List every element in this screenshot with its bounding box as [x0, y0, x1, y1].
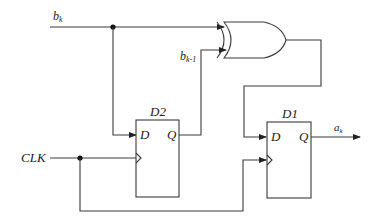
wire-bk-to-d2: [113, 27, 136, 135]
label-bk: bk: [53, 9, 63, 24]
d1-d-pin: D: [270, 129, 281, 144]
d1-q-pin: Q: [299, 129, 309, 144]
label-ak: ak: [334, 121, 344, 135]
d2-title: D2: [149, 104, 166, 119]
d1-title: D1: [281, 106, 298, 121]
circuit-diagram: bk bk-1 D2 D Q D1 D Q CLK: [0, 0, 381, 223]
d2-d-pin: D: [139, 127, 150, 142]
flipflop-d2: D2 D Q: [136, 104, 179, 197]
d2-q-pin: Q: [167, 127, 177, 142]
label-clk: CLK: [21, 150, 47, 165]
xor-gate: [217, 22, 286, 58]
flipflop-d1: D1 D Q: [267, 106, 311, 198]
label-bk-1: bk-1: [180, 49, 196, 64]
